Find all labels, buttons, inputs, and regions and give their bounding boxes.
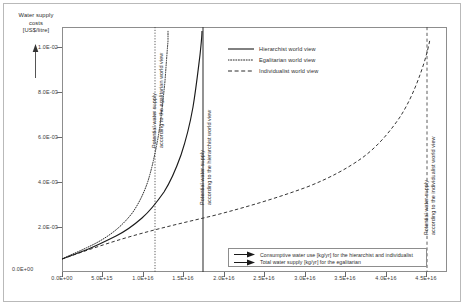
x-axis-ticks: 0.0E+00 5.0E+15 1.0E+16 1.5E+16 2.0E+16 … [0,275,464,291]
y-tick-mark-5 [57,47,62,48]
legend2-item-consumptive-use[interactable]: Consumptive water use [kg/yr] for the hi… [234,251,426,259]
chart-figure: Water supply costs [US$/litre] Potential… [0,0,464,305]
x-tick-label-5: 2.5E+16 [253,275,274,281]
legend-item-individualist[interactable]: Individualist world view [228,65,378,76]
y-axis-ticks: 1.0E-02 8.0E-03 6.0E-03 4.0E-03 2.0E-03 [0,0,58,305]
legend2-item-total-supply[interactable]: Total water supply [kg/yr] for the egali… [234,259,426,267]
y-tick-label-3: 6.0E-03 [38,134,58,140]
legend-item-egalitarian[interactable]: Egalitarian world view [228,54,378,65]
legend2-label-total-supply: Total water supply [kg/yr] for the egali… [260,259,361,265]
y-tick-mark-4 [57,92,62,93]
legend-swatch-dotted-icon [228,56,254,64]
annotation-egalitarian-line-2: according to the egalitarian world view [158,53,165,148]
x-tick-label-0: 0.0E+00 [51,275,72,281]
x-tick-label-3: 1.5E+16 [172,275,193,281]
x-tick-label-8: 4.0E+16 [375,275,396,281]
legend-label-individualist: Individualist world view [259,68,318,74]
legend-label-hierarchist: Hierarchist world view [259,46,316,52]
y-tick-label-2: 4.0E-03 [38,179,58,185]
x-tick-label-7: 3.5E+16 [334,275,355,281]
legend-label-egalitarian: Egalitarian world view [259,57,315,63]
y-tick-label-5: 1.0E-02 [38,44,58,50]
x-tick-label-2: 1.0E+16 [132,275,153,281]
annotation-hierarchist-line-2: according to the hierarchist world view [206,110,213,205]
annotation-individualist-supply: Potential water supply according to the … [423,137,436,235]
annotation-individualist-line-2: according to the individualist world vie… [430,137,437,235]
x-tick-label-9: 4.5E+16 [415,275,436,281]
x-tick-label-1: 5.0E+15 [91,275,112,281]
y-tick-label-1: 2.0E-03 [38,224,58,230]
x-tick-label-6: 3.0E+16 [294,275,315,281]
legend-axis-quantities: Consumptive water use [kg/yr] for the hi… [228,248,427,267]
y-tick-mark-1 [57,227,62,228]
legend-swatch-solid-icon [228,45,254,53]
y-tick-mark-3 [57,137,62,138]
annotation-egalitarian-supply: Potential water supply according to the … [151,53,164,148]
arrow-right-icon-2 [234,259,256,266]
arrow-right-icon [234,251,256,258]
y-tick-label-4: 8.0E-03 [38,89,58,95]
legend2-label-consumptive-use: Consumptive water use [kg/yr] for the hi… [260,252,413,258]
series-line-hierarchist [62,31,202,259]
y-tick-mark-2 [57,182,62,183]
legend-series: Hierarchist world view Egalitarian world… [228,43,378,76]
legend-item-hierarchist[interactable]: Hierarchist world view [228,43,378,54]
annotation-hierarchist-line-1: Potential water supply [199,150,205,205]
annotation-egalitarian-line-1: Potential water supply [151,93,157,148]
annotation-individualist-line-1: Potential water supply [423,180,429,235]
annotation-hierarchist-supply: Potential water supply according to the … [199,110,212,205]
legend-swatch-dashed-icon [228,67,254,75]
y-tick-label-0: 0.0E+00 [12,266,33,272]
x-tick-label-4: 2.0E+16 [213,275,234,281]
